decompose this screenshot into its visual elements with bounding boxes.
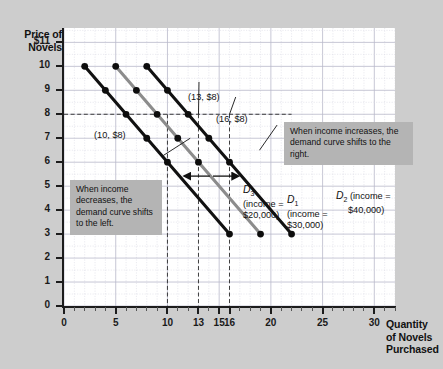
curve-legend-d3: D3 (income = $20,000) [243,184,284,221]
curve-legend-d1-name: D [287,194,295,205]
curve-legend-d1-income-1: (income = [287,209,328,220]
curve-legend-d2-name: D [336,190,344,201]
callout-income-decreases: When income decreases, the demand curve … [70,180,162,235]
point-label-13-8: (13, $8) [188,92,220,102]
curve-legend-d2: D2 (income = $40,000) [336,190,391,216]
point-label-16-8: (16, $8) [216,114,248,124]
curve-legend-d3-income-2: $20,000) [243,210,284,221]
curve-legend-d2-sub: 2 [344,196,348,203]
curve-legend-d3-sub: 3 [251,190,255,197]
callout-income-increases: When income increases, the demand curve … [284,122,413,165]
curve-legend-d1-sub: 1 [295,200,299,207]
point-label-10-8: (10, $8) [94,130,126,140]
curve-legend-d3-income-1: (income = [243,199,284,210]
curve-legend-d1: D1 (income = $30,000) [287,194,328,231]
curve-legend-d2-income-2: $40,000) [336,205,391,216]
curve-legend-d2-income-1: (income = [350,191,391,201]
curve-legend-d1-income-2: $30,000) [287,220,328,231]
curve-legend-d3-name: D [243,184,251,195]
